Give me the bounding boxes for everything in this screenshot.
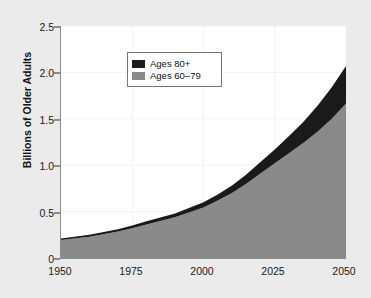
x-tick-label-1950: 1950 [48, 266, 71, 277]
legend-swatch-icon-ages-80-plus [132, 60, 145, 68]
legend-swatch-icon-ages-60-79 [132, 72, 145, 80]
y-tick-label-2-5: 2.5 [39, 22, 54, 33]
x-tick-label-2025: 2025 [261, 266, 284, 277]
legend-item-ages-80-plus: Ages 80+ [132, 58, 216, 69]
y-tick-label-1-5: 1.5 [39, 115, 54, 126]
chart-legend: Ages 80+ Ages 60–79 [127, 52, 222, 87]
legend-label-ages-60-79: Ages 60–79 [150, 71, 201, 81]
x-tick-label-2050: 2050 [332, 266, 355, 277]
x-tick-label-2000: 2000 [190, 266, 213, 277]
x-axis-tick-labels: 1950 1975 2000 2025 2050 [0, 266, 371, 282]
chart-figure: Billions of Older Adults 2.5 2.0 1.5 1.0… [0, 0, 371, 298]
y-axis-tick-labels: 2.5 2.0 1.5 1.0 0.5 0 [0, 0, 54, 298]
y-tick-label-0-5: 0.5 [39, 208, 54, 219]
y-tick-label-1-0: 1.0 [39, 161, 54, 172]
plot-frame: Ages 80+ Ages 60–79 [60, 26, 346, 259]
legend-item-ages-60-79: Ages 60–79 [132, 70, 216, 81]
x-tick-label-1975: 1975 [119, 266, 142, 277]
y-tick-label-2-0: 2.0 [39, 68, 54, 79]
legend-label-ages-80-plus: Ages 80+ [150, 59, 190, 69]
